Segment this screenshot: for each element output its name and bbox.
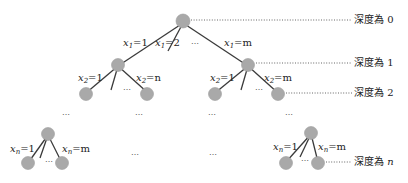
edge-label-x1-2: x1=2	[155, 37, 180, 50]
edge-label-xn-m-right: xn=m	[318, 141, 347, 154]
edge-label-x2-m: x2=m	[264, 72, 292, 85]
level2-node	[272, 88, 285, 101]
depth-label-n: 深度為 n	[354, 155, 394, 167]
root-node	[176, 14, 190, 28]
depth-label-1: 深度為 1	[354, 56, 394, 68]
ellipsis: ⋯	[301, 156, 309, 165]
level2-node	[141, 88, 154, 101]
edge-label-x2-n: x2=n	[136, 72, 161, 85]
edge-label-x2-1-right: x2=1	[210, 72, 235, 85]
edge-label-x2-1-left: x2=1	[78, 72, 103, 85]
ellipsis: ⋯	[131, 150, 139, 159]
ellipsis: ⋯	[191, 39, 199, 48]
ellipsis: ⋯	[209, 150, 217, 159]
level2-node	[209, 88, 222, 101]
depth-label-2: 深度為 2	[354, 86, 394, 98]
edge-label-x1-m: x1=m	[224, 37, 252, 50]
ellipsis: ⋯	[208, 110, 216, 119]
bottom-right-parent-node	[305, 127, 318, 140]
ellipsis: ⋯	[45, 157, 53, 166]
level1-left-node	[112, 59, 125, 72]
leaf-node	[22, 157, 35, 170]
level2-node	[80, 88, 93, 101]
bottom-left-parent-node	[42, 128, 55, 141]
leaf-node	[56, 157, 69, 170]
edge-label-xn-1-left: xn=1	[10, 143, 35, 156]
ellipsis: ⋯	[255, 85, 263, 94]
edge-label-xn-m-left: xn=m	[62, 143, 91, 156]
continuation-ellipses: ⋯ ⋯ ⋯ ⋯	[62, 110, 293, 119]
ellipsis: ⋯	[62, 110, 70, 119]
search-tree-diagram: x1=1 x1=2 ⋯ x1=m x2=1 x2=n ⋯ x2=1 x2=m ⋯…	[0, 0, 408, 183]
ellipsis: ⋯	[123, 85, 131, 94]
leaf-node	[312, 157, 325, 170]
ellipsis: ⋯	[285, 110, 293, 119]
ellipsis: ⋯	[135, 110, 143, 119]
level1-right-node	[242, 59, 255, 72]
depth-label-0: 深度為 0	[354, 13, 394, 25]
leaf-node	[280, 157, 293, 170]
